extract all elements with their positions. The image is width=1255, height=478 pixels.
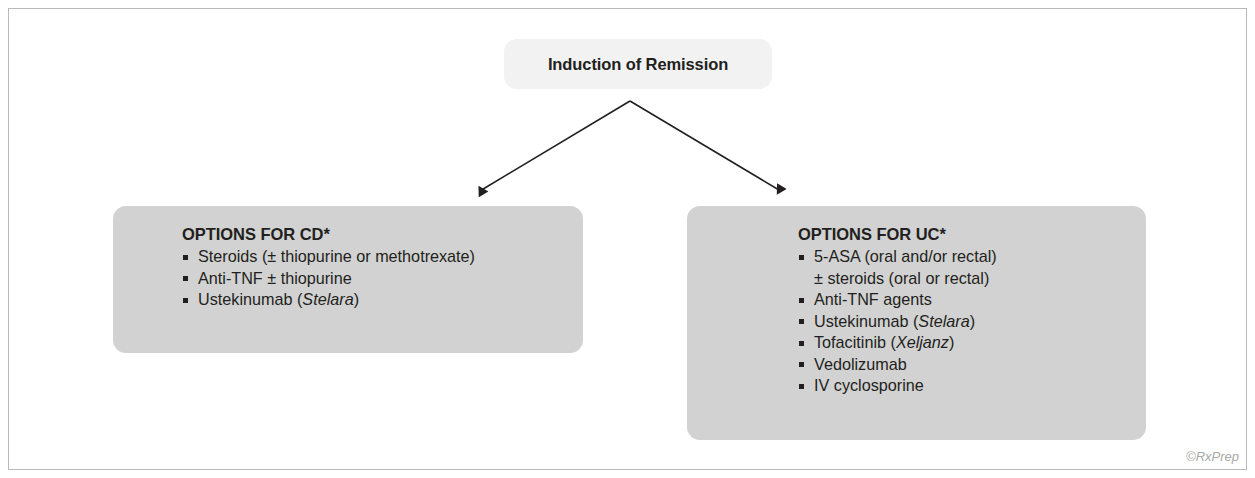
list-item: IV cyclosporine — [798, 375, 1132, 397]
brand-name: Xeljanz — [896, 333, 949, 351]
square-bullet-icon — [799, 384, 804, 389]
list-item-tail: ) — [949, 333, 954, 351]
list-item-text: Anti-TNF agents — [814, 290, 932, 308]
list-item: Steroids (± thiopurine or methotrexate) — [182, 246, 569, 268]
list-uc-options: 5-ASA (oral and/or rectal) ± steroids (o… — [798, 246, 1132, 397]
list-item: 5-ASA (oral and/or rectal) — [798, 246, 1132, 268]
brand-name: Stelara — [918, 312, 969, 330]
list-cd-options: Steroids (± thiopurine or methotrexate) … — [182, 246, 569, 311]
heading-options-for-uc: OPTIONS FOR UC* — [798, 225, 1132, 244]
list-item-text: Steroids (± thiopurine or methotrexate) — [198, 247, 475, 265]
list-item-text: 5-ASA (oral and/or rectal) — [814, 247, 997, 265]
list-item: Vedolizumab — [798, 354, 1132, 376]
list-item-text: Ustekinumab ( — [814, 312, 918, 330]
node-options-for-uc: OPTIONS FOR UC* 5-ASA (oral and/or recta… — [687, 206, 1146, 440]
list-item: Anti-TNF agents — [798, 289, 1132, 311]
list-item-text: Anti-TNF ± thiopurine — [198, 269, 352, 287]
heading-options-for-cd: OPTIONS FOR CD* — [182, 225, 569, 244]
list-item-tail: ) — [970, 312, 975, 330]
list-item-text: IV cyclosporine — [814, 376, 924, 394]
list-item: Anti-TNF ± thiopurine — [182, 268, 569, 290]
square-bullet-icon — [799, 319, 804, 324]
list-item-text: Vedolizumab — [814, 355, 907, 373]
list-item: Ustekinumab (Stelara) — [182, 289, 569, 311]
list-item-continuation: ± steroids (oral or rectal) — [798, 268, 1132, 290]
square-bullet-icon — [183, 276, 188, 281]
root-title: Induction of Remission — [548, 55, 728, 74]
list-item-tail: ) — [354, 290, 359, 308]
list-item: Tofacitinib (Xeljanz) — [798, 332, 1132, 354]
brand-name: Stelara — [302, 290, 353, 308]
square-bullet-icon — [799, 255, 804, 260]
node-induction-of-remission: Induction of Remission — [504, 39, 772, 89]
square-bullet-icon — [799, 341, 804, 346]
square-bullet-icon — [183, 298, 188, 303]
list-item-text: Ustekinumab ( — [198, 290, 302, 308]
square-bullet-icon — [799, 362, 804, 367]
list-item-text: Tofacitinib ( — [814, 333, 896, 351]
list-item-text: ± steroids (oral or rectal) — [814, 269, 989, 287]
square-bullet-icon — [183, 255, 188, 260]
node-options-for-cd: OPTIONS FOR CD* Steroids (± thiopurine o… — [113, 206, 583, 353]
diagram-canvas: Induction of Remission OPTIONS FOR CD* S… — [0, 0, 1255, 478]
list-item: Ustekinumab (Stelara) — [798, 311, 1132, 333]
square-bullet-icon — [799, 298, 804, 303]
copyright-credit: ©RxPrep — [1186, 449, 1239, 464]
